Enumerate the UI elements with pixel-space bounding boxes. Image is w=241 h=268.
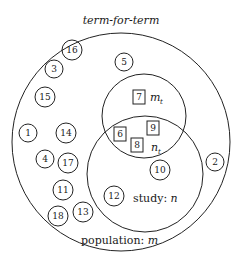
- svg-text:t: t: [158, 148, 161, 156]
- svg-text:2: 2: [212, 157, 218, 167]
- svg-text:10: 10: [154, 165, 166, 175]
- svg-text:8: 8: [134, 140, 140, 150]
- svg-text:3: 3: [51, 64, 57, 74]
- population-label: population: m: [81, 234, 158, 247]
- svg-text:17: 17: [62, 158, 74, 168]
- svg-text:7: 7: [136, 92, 142, 102]
- study-circle: [87, 116, 203, 232]
- svg-text:18: 18: [52, 211, 64, 221]
- svg-text:t: t: [160, 98, 163, 106]
- svg-text:9: 9: [150, 123, 156, 133]
- item-11: 11: [53, 180, 73, 200]
- svg-text:5: 5: [121, 57, 127, 67]
- svg-text:6: 6: [117, 129, 123, 139]
- item-14: 14: [56, 123, 76, 143]
- nt-label: n t: [151, 141, 161, 156]
- item-1: 1: [19, 124, 37, 142]
- svg-text:1: 1: [25, 128, 31, 138]
- mt-label: m t: [150, 91, 163, 106]
- item-13: 13: [73, 202, 93, 222]
- svg-text:13: 13: [77, 207, 89, 217]
- item-3: 3: [45, 60, 63, 78]
- item-6: 6: [114, 127, 126, 141]
- item-17: 17: [58, 153, 78, 173]
- item-2: 2: [206, 153, 224, 171]
- item-5: 5: [115, 53, 133, 71]
- item-7: 7: [133, 90, 145, 104]
- study-label: study: n: [133, 192, 178, 205]
- svg-text:15: 15: [39, 92, 51, 102]
- item-15: 15: [35, 87, 55, 107]
- svg-text:14: 14: [60, 128, 72, 138]
- svg-text:11: 11: [57, 185, 68, 195]
- venn-diagram: term-for-term 16 3 15 1 14 4 17 11 18 13…: [0, 0, 241, 268]
- item-8: 8: [131, 138, 143, 152]
- item-16: 16: [62, 40, 82, 60]
- svg-text:m: m: [150, 91, 160, 104]
- svg-text:16: 16: [66, 45, 78, 55]
- item-18: 18: [48, 206, 68, 226]
- svg-text:population: m: population: m: [81, 234, 158, 247]
- diagram-title: term-for-term: [83, 14, 160, 27]
- svg-text:study: n: study: n: [133, 192, 178, 205]
- svg-text:4: 4: [42, 154, 48, 164]
- svg-text:12: 12: [108, 191, 119, 201]
- item-9: 9: [147, 121, 159, 135]
- item-10: 10: [150, 160, 170, 180]
- item-12: 12: [104, 186, 124, 206]
- item-4: 4: [36, 150, 54, 168]
